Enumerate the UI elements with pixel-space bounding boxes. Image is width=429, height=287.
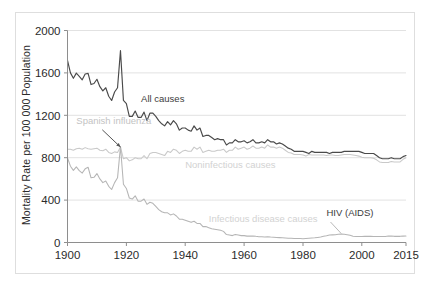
x-tick-label: 1920 — [114, 249, 140, 261]
annotation-hiv-aids: HIV (AIDS) — [327, 207, 374, 218]
chart-figure: Mortality Rate per 100 000 Population 04… — [0, 0, 429, 287]
annotation-spanish-influenza: Spanish influenza — [76, 115, 152, 126]
annotations-group: All causesSpanish influenzaNoninfectious… — [76, 93, 373, 234]
y-tick-label: 2000 — [35, 25, 61, 37]
annotation-all-causes: All causes — [141, 93, 185, 104]
x-tick-label: 1960 — [231, 249, 257, 261]
annotation-noninfectious-causes: Noninfectious causes — [185, 159, 276, 170]
series-line-all-causes — [68, 51, 407, 159]
y-tick-label: 1200 — [35, 110, 61, 122]
y-tick-label: 1600 — [35, 67, 61, 79]
annotation-leader-line — [331, 222, 342, 234]
x-tick-label: 1900 — [55, 249, 81, 261]
x-tick-label: 2015 — [393, 249, 419, 261]
tick-labels-group: 0400800120016002000190019201940196019802… — [35, 25, 419, 261]
x-tick-label: 1980 — [290, 249, 316, 261]
y-tick-label: 0 — [54, 237, 60, 249]
y-tick-label: 400 — [41, 194, 60, 206]
x-tick-label: 1940 — [172, 249, 198, 261]
mortality-rate-line-chart: 0400800120016002000190019201940196019802… — [0, 0, 429, 287]
y-tick-label: 800 — [41, 152, 60, 164]
x-tick-label: 2000 — [349, 249, 375, 261]
annotation-infectious-disease-causes: Infectious disease causes — [209, 213, 318, 224]
